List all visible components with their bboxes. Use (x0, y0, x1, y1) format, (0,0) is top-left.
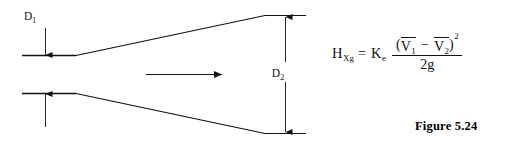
loss-coefficient-symbol: K (371, 45, 382, 62)
outlet-diameter-symbol: D (272, 67, 280, 79)
figure-container: D1 D2 HXg = Ke ( (0, 0, 514, 151)
inlet-diameter-symbol: D (24, 10, 32, 22)
outlet-diameter-label: D2 (272, 67, 284, 82)
equals-sign: = (354, 46, 371, 62)
overbar-v1 (401, 37, 416, 38)
inlet-diameter-label: D1 (24, 10, 36, 25)
fraction-numerator: ( V1 − V2 )2 (392, 37, 462, 55)
mean-velocity-1: V1 (401, 37, 416, 54)
overbar-v2 (434, 37, 449, 38)
diverging-upper-wall (76, 16, 265, 56)
loss-coefficient-subscript: e (382, 53, 386, 63)
velocity-head-fraction: ( V1 − V2 )2 2g (392, 37, 462, 73)
head-loss-equation: HXg = Ke ( V1 − V2 (332, 36, 462, 72)
numerator-exponent: 2 (454, 32, 459, 41)
loss-coefficient: Ke (371, 45, 386, 62)
figure-caption: Figure 5.24 (415, 119, 477, 134)
velocity-1-symbol: V (401, 40, 411, 55)
inlet-diameter-subscript: 1 (32, 16, 36, 25)
diverging-lower-wall (76, 94, 265, 134)
velocity-2-symbol: V (434, 40, 444, 55)
outlet-diameter-subscript: 2 (280, 73, 284, 82)
open-paren: ( (396, 38, 401, 53)
close-paren: ) (449, 38, 454, 53)
mean-velocity-2: V2 (434, 37, 449, 54)
equation-lhs: HXg (332, 45, 354, 62)
head-loss-symbol: H (332, 45, 343, 62)
fraction-denominator: 2g (420, 56, 434, 73)
head-loss-subscript: Xg (343, 53, 355, 63)
minus-operator: − (416, 38, 434, 53)
